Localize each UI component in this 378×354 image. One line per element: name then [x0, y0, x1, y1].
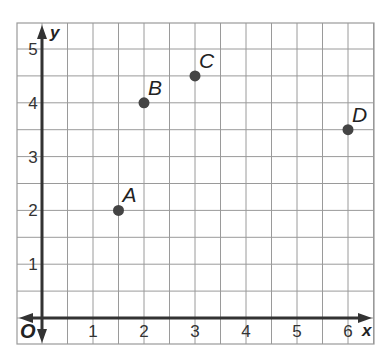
point-c	[190, 70, 201, 81]
point-label-b: B	[148, 76, 162, 99]
point-label-d: D	[352, 103, 367, 126]
origin-label: O	[20, 320, 36, 342]
tick-labels: 12345612345	[28, 40, 352, 341]
y-tick-label: 2	[28, 201, 37, 220]
y-axis-arrow-up-icon	[37, 25, 47, 39]
point-b	[139, 97, 150, 108]
y-tick-label: 5	[28, 40, 37, 59]
y-tick-label: 1	[28, 255, 37, 274]
coordinate-plane: 12345612345 ABCD x y O	[0, 0, 378, 354]
y-axis-label: y	[49, 23, 61, 42]
point-d	[343, 124, 354, 135]
x-tick-label: 3	[190, 322, 199, 341]
x-tick-label: 6	[343, 322, 352, 341]
x-tick-label: 5	[292, 322, 301, 341]
x-tick-label: 4	[241, 322, 250, 341]
point-label-c: C	[199, 49, 215, 72]
y-axis-arrow-down-icon	[37, 329, 47, 343]
y-tick-label: 3	[28, 148, 37, 167]
data-points: ABCD	[113, 49, 367, 216]
point-a	[113, 205, 124, 216]
x-tick-label: 1	[88, 322, 97, 341]
y-tick-label: 4	[28, 94, 37, 113]
point-label-a: A	[121, 183, 137, 206]
x-tick-label: 2	[139, 322, 148, 341]
x-axis-label: x	[361, 321, 373, 340]
